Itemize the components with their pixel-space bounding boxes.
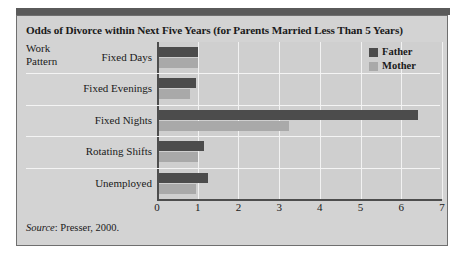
chart-panel: Odds of Divorce within Next Five Years (… <box>16 15 448 246</box>
gridline <box>442 42 443 199</box>
bar-father-rotating-shifts <box>157 141 204 151</box>
category-label-fixed-nights: Fixed Nights <box>27 114 152 126</box>
category-label-group: Fixed DaysFixed EveningsFixed NightsRota… <box>22 42 152 199</box>
bar-mother-fixed-evenings <box>157 89 190 99</box>
legend-label-mother: Mother <box>382 60 416 71</box>
legend-label-father: Father <box>382 46 412 57</box>
x-tick-label-1: 1 <box>188 201 208 213</box>
row-separator <box>26 136 440 137</box>
bar-mother-rotating-shifts <box>157 152 198 162</box>
category-label-fixed-days: Fixed Days <box>27 51 152 63</box>
bar-mother-fixed-days <box>157 58 198 68</box>
source-note: Source: Presser, 2000. <box>26 222 119 233</box>
x-tick-label-0: 0 <box>147 201 167 213</box>
bar-group-fixed-nights <box>157 105 442 136</box>
bar-group-unemployed <box>157 168 442 199</box>
legend-item-mother: Mother <box>369 60 441 73</box>
x-tick-label-2: 2 <box>228 201 248 213</box>
x-tick-label-4: 4 <box>310 201 330 213</box>
bar-father-fixed-evenings <box>157 78 196 88</box>
bar-group-fixed-evenings <box>157 73 442 104</box>
y-axis-line <box>157 42 159 199</box>
legend-swatch-mother-icon <box>369 62 378 71</box>
category-label-rotating-shifts: Rotating Shifts <box>27 145 152 157</box>
chart-title: Odds of Divorce within Next Five Years (… <box>26 24 442 36</box>
bar-mother-unemployed <box>157 184 196 194</box>
legend-item-father: Father <box>369 46 441 59</box>
bar-father-fixed-nights <box>157 110 418 120</box>
source-text: : Presser, 2000. <box>55 222 119 233</box>
row-separator <box>26 168 440 169</box>
legend-swatch-father-icon <box>369 48 378 57</box>
x-tick-label-7: 7 <box>432 201 452 213</box>
bar-mother-fixed-nights <box>157 121 289 131</box>
x-axis-tick-label-group: 01234567 <box>157 201 442 215</box>
figure-top-bar <box>16 8 450 15</box>
x-tick-label-6: 6 <box>391 201 411 213</box>
row-separator <box>26 105 440 106</box>
category-label-unemployed: Unemployed <box>27 177 152 189</box>
bar-father-fixed-days <box>157 47 198 57</box>
x-tick-label-5: 5 <box>351 201 371 213</box>
bar-father-unemployed <box>157 173 208 183</box>
bar-group-rotating-shifts <box>157 136 442 167</box>
source-label: Source <box>26 222 55 233</box>
legend: FatherMother <box>369 46 441 74</box>
x-tick-label-3: 3 <box>269 201 289 213</box>
category-label-fixed-evenings: Fixed Evenings <box>27 82 152 94</box>
figure: Odds of Divorce within Next Five Years (… <box>16 8 450 250</box>
